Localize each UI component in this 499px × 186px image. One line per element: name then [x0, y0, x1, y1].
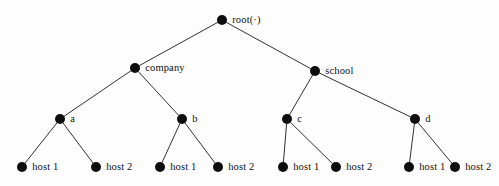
tree-node-label-a: a: [70, 114, 75, 125]
tree-edge-root-to-company: [139, 22, 218, 65]
tree-node-label-a-h1: host 1: [32, 162, 58, 173]
tree-edge-c-to-c-h2: [290, 122, 332, 163]
tree-node-label-root: root(·): [232, 15, 260, 26]
tree-node-label-d-h2: host 2: [465, 162, 491, 173]
tree-edge-d-to-d-h1: [410, 124, 415, 163]
tree-node-label-b-h1: host 1: [170, 162, 196, 173]
tree-node-label-b-h2: host 2: [228, 162, 254, 173]
tree-node-label-company: company: [145, 63, 185, 74]
tree-node-label-b: b: [192, 114, 197, 125]
tree-node-label-d-h1: host 1: [419, 162, 445, 173]
tree-edge-a-to-a-h2: [63, 123, 93, 163]
tree-node-label-school: school: [325, 66, 353, 77]
tree-edge-b-to-b-h2: [185, 123, 215, 163]
tree-edge-root-to-school: [226, 22, 311, 68]
tree-node-label-c: c: [297, 114, 302, 125]
tree-edge-c-to-c-h1: [283, 124, 286, 163]
tree-edge-company-to-a: [64, 71, 131, 117]
tree-edge-a-to-a-h1: [25, 123, 57, 164]
tree-edge-d-to-d-h2: [418, 123, 452, 164]
tree-node-label-a-h2: host 2: [106, 162, 132, 173]
tree-node-label-c-h1: host 1: [293, 162, 319, 173]
tree-edge-school-to-d: [319, 73, 411, 117]
tree-node-label-c-h2: host 2: [346, 162, 372, 173]
tree-edge-b-to-b-h1: [162, 123, 180, 162]
tree-diagram: root(·)companyschoolabcdhost 1host 2host…: [0, 0, 499, 186]
tree-node-label-d: d: [425, 114, 430, 125]
tree-edges-layer: [0, 0, 499, 186]
tree-edge-company-to-b: [138, 71, 179, 115]
tree-edge-school-to-c: [289, 75, 312, 115]
